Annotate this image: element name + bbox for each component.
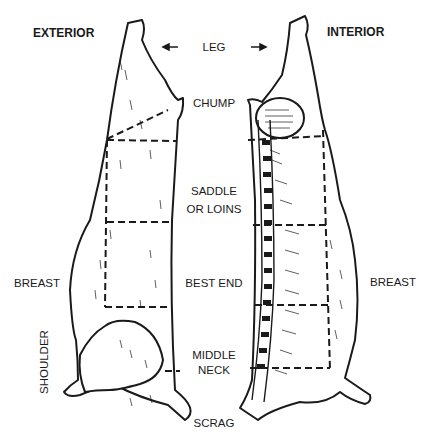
cut-label-saddle-line1: SADDLE (191, 186, 237, 198)
cut-label-best-end: BEST END (185, 278, 242, 290)
interior-carcass (240, 16, 370, 420)
cut-label-scrag: SCRAG (194, 418, 235, 430)
cut-label-middle-neck-line2: NECK (198, 365, 230, 377)
side-label-breast-left: BREAST (14, 278, 60, 290)
side-label-breast-right: BREAST (370, 277, 416, 289)
carcass-illustration (0, 0, 427, 448)
chump-cut-section (256, 98, 304, 138)
cut-label-leg: LEG (202, 42, 225, 54)
view-label-exterior: EXTERIOR (33, 27, 94, 39)
view-label-interior: INTERIOR (327, 26, 384, 38)
cut-label-chump: CHUMP (193, 98, 235, 110)
side-label-shoulder: SHOULDER (39, 330, 51, 394)
cut-label-saddle-line2: OR LOINS (187, 204, 242, 216)
cut-label-middle-neck-line1: MIDDLE (192, 350, 235, 362)
